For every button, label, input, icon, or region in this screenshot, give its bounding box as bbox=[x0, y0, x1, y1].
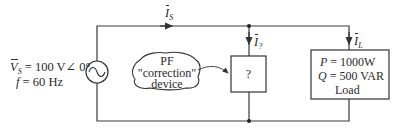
current-subscript: ? bbox=[258, 42, 262, 51]
voltage-value: = 100 V∠ 0° bbox=[22, 60, 91, 74]
load-q-label: Q = 500 VAR bbox=[318, 69, 384, 83]
junction-dot-bottom bbox=[247, 119, 251, 123]
cloud-line-3: device bbox=[134, 79, 200, 91]
load-current-label: IL bbox=[354, 34, 363, 53]
source-current-label: IS bbox=[165, 6, 173, 25]
current-subscript: S bbox=[169, 13, 173, 22]
device-box-label: ? bbox=[231, 67, 266, 81]
q-symbol: Q bbox=[318, 69, 327, 83]
current-symbol: I bbox=[254, 35, 258, 49]
current-symbol: I bbox=[354, 34, 358, 48]
load-p-label: P = 1000W bbox=[320, 55, 375, 69]
junction-dot-top bbox=[247, 24, 251, 28]
load-label: Load bbox=[335, 83, 360, 97]
device-current-label: I? bbox=[254, 35, 262, 54]
pointer-arrow bbox=[198, 66, 228, 73]
frequency-value: = 60 Hz bbox=[19, 75, 63, 89]
p-value: = 1000W bbox=[327, 55, 375, 69]
source-frequency-label: f = 60 Hz bbox=[16, 75, 63, 89]
cloud-text: PF "correction" device bbox=[134, 56, 200, 91]
q-value: = 500 VAR bbox=[327, 69, 384, 83]
current-symbol: I bbox=[165, 6, 169, 20]
current-subscript: L bbox=[358, 41, 362, 50]
voltage-symbol: V bbox=[10, 60, 18, 74]
